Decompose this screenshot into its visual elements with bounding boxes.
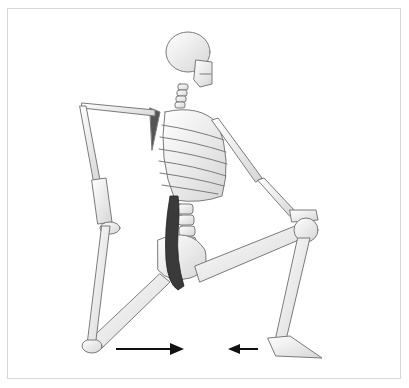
front-foot [268,336,322,358]
back-tibia [88,226,110,340]
right-arm [212,118,318,222]
arrow-right [116,343,184,355]
neck-vertebrae [175,84,188,108]
back-knee [82,339,102,353]
skull [166,32,212,87]
skeleton-illustration [0,0,409,388]
front-tibia [276,238,310,340]
left-arm [80,103,155,234]
arrow-left [228,344,258,354]
